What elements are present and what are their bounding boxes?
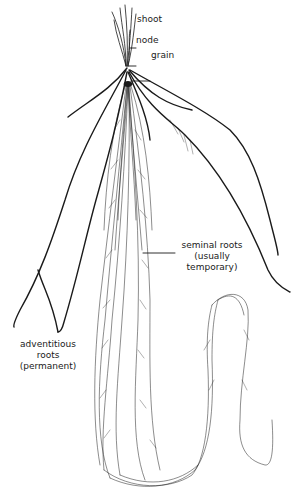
label-adventitious-line2: roots bbox=[8, 350, 88, 361]
adventitious-roots bbox=[14, 68, 290, 332]
label-adventitious-line1: adventitious bbox=[8, 339, 88, 350]
root-system-drawing bbox=[0, 0, 298, 495]
label-grain: grain bbox=[151, 50, 174, 61]
shoot-blades bbox=[112, 5, 136, 66]
label-node: node bbox=[136, 35, 158, 46]
label-adventitious-line3: (permanent) bbox=[8, 361, 88, 372]
label-seminal-line3: temporary) bbox=[172, 262, 252, 273]
label-seminal-roots: seminal roots (usually temporary) bbox=[172, 240, 252, 273]
label-seminal-line1: seminal roots bbox=[172, 240, 252, 251]
seminal-roots bbox=[95, 86, 273, 486]
label-shoot: shoot bbox=[137, 14, 162, 25]
root-hairs bbox=[100, 120, 249, 448]
label-seminal-line2: (usually bbox=[172, 251, 252, 262]
label-adventitious-roots: adventitious roots (permanent) bbox=[8, 339, 88, 372]
